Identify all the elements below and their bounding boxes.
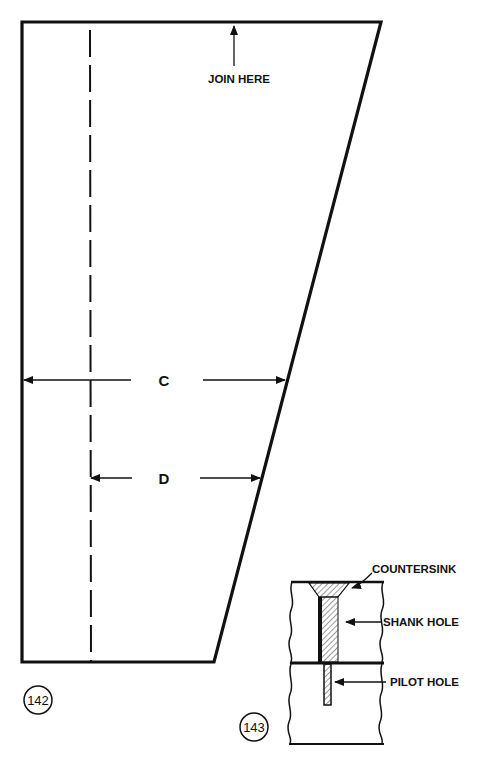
shank-hole-label: SHANK HOLE — [383, 616, 459, 628]
countersink-cone — [309, 583, 349, 597]
dashed-reference-line — [90, 30, 91, 662]
shank-hole-shadow — [318, 597, 322, 662]
countersink-leader-arrow-icon — [352, 573, 372, 588]
figure-number-143: 143 — [243, 720, 265, 735]
join-here-label: JOIN HERE — [208, 73, 270, 85]
figure-number-142: 142 — [27, 693, 49, 708]
dimension-c-label: C — [159, 372, 170, 389]
countersink-label: COUNTERSINK — [372, 563, 457, 575]
lower-board — [288, 664, 384, 744]
figure-143: COUNTERSINK SHANK HOLE PILOT HOLE 143 — [240, 563, 459, 744]
pilot-hole — [324, 664, 331, 705]
pilot-hole-label: PILOT HOLE — [390, 676, 459, 688]
panel-outline — [22, 22, 381, 662]
diagram-canvas: JOIN HERE C D 142 — [0, 0, 488, 759]
dimension-d-label: D — [159, 470, 170, 487]
